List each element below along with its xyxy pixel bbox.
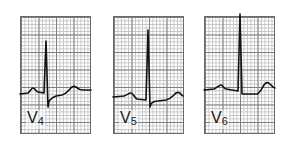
lead-label-v6: V6 (210, 110, 229, 129)
ecg-panel-v5: V5 (113, 16, 184, 134)
ecg-panel-v6: V6 (204, 16, 275, 134)
lead-label-v4: V4 (26, 110, 45, 129)
lead-label-v5: V5 (119, 110, 138, 129)
ecg-panel-v4: V4 (20, 16, 91, 134)
